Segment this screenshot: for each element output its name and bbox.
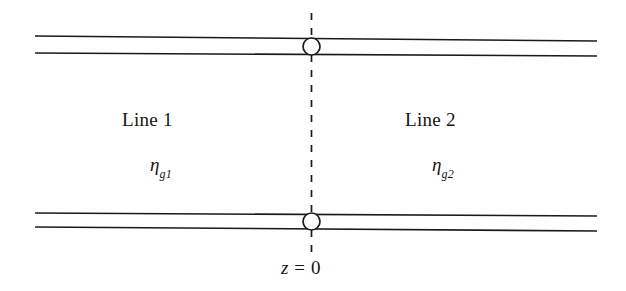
z-variable-symbol: z (281, 257, 289, 278)
upper-junction-node-icon (303, 38, 320, 55)
line-1-label: Line 1 (122, 110, 173, 129)
line-2-label: Line 2 (405, 110, 456, 129)
line-1-intrinsic-impedance-label: ηg1 (150, 155, 172, 178)
eta-subscript-line-1: g1 (159, 167, 171, 181)
lower-junction-node-icon (303, 213, 320, 230)
z-equals-zero-label: z = 0 (281, 258, 321, 277)
z-value: 0 (311, 257, 321, 278)
diagram-canvas (0, 0, 626, 291)
line-2-intrinsic-impedance-label: ηg2 (432, 155, 454, 178)
z-equals-sign: = (289, 257, 311, 278)
eta-subscript-line-2: g2 (441, 167, 453, 181)
transmission-line-junction-figure: Line 1 ηg1 Line 2 ηg2 z = 0 (0, 0, 626, 291)
